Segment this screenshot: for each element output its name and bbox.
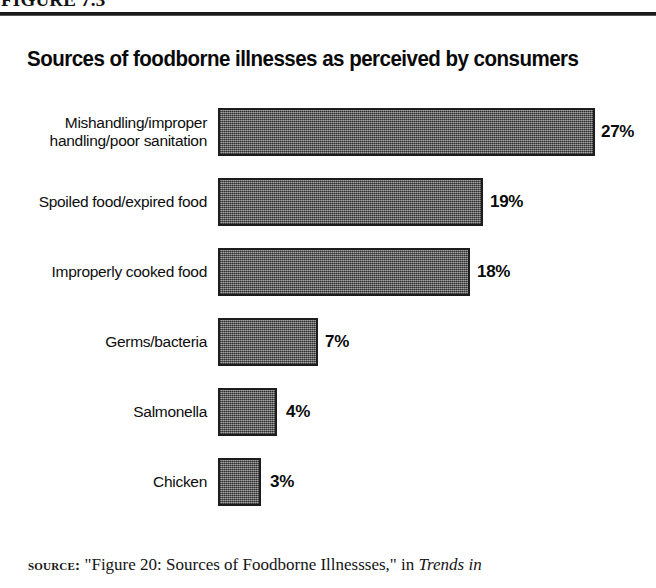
figure-number: FIGURE 7.3: [1, 0, 105, 11]
bar-category-label-line1: Salmonella: [133, 403, 207, 422]
bar-category-label: Chicken: [0, 454, 207, 510]
bar-value-label: 18%: [477, 244, 510, 300]
bar-category-label: Salmonella: [0, 384, 207, 440]
bar-rect: [218, 388, 277, 436]
bar-row: Germs/bacteria 7%: [0, 314, 656, 370]
bar-rect: [218, 108, 595, 156]
header-divider-rule-thin: [0, 15, 656, 16]
bar-category-label-line1: Germs/bacteria: [105, 333, 207, 352]
bar-category-label-line1: Mishandling/improper: [65, 114, 207, 133]
source-label: source:: [28, 557, 80, 573]
bar-value-label: 19%: [490, 174, 523, 230]
bar-category-label: Mishandling/improper handling/poor sanit…: [0, 104, 207, 160]
bar-category-label: Improperly cooked food: [0, 244, 207, 300]
bar-category-label: Germs/bacteria: [0, 314, 207, 370]
bar-row: Spoiled food/expired food 19%: [0, 174, 656, 230]
source-publication-title: Trends in: [419, 555, 482, 574]
bar-rect: [218, 458, 261, 506]
bar-value-label: 27%: [601, 104, 634, 160]
bar-rect: [218, 318, 318, 366]
bar-rect: [218, 178, 483, 226]
bar-row: Chicken 3%: [0, 454, 656, 510]
bar-value-label: 4%: [286, 384, 310, 440]
source-citation-text: "Figure 20: Sources of Foodborne Illness…: [80, 555, 418, 574]
bar-rect: [218, 248, 470, 296]
bar-category-label-line1: Improperly cooked food: [52, 263, 207, 282]
bar-value-label: 3%: [270, 454, 294, 510]
bar-value-label: 7%: [325, 314, 349, 370]
bar-category-label: Spoiled food/expired food: [0, 174, 207, 230]
bar-category-label-line2: handling/poor sanitation: [50, 132, 207, 151]
bar-row: Salmonella 4%: [0, 384, 656, 440]
bar-row: Mishandling/improper handling/poor sanit…: [0, 104, 656, 160]
bar-row: Improperly cooked food 18%: [0, 244, 656, 300]
source-note: source: "Figure 20: Sources of Foodborne…: [28, 554, 638, 576]
bar-chart-plot-area: Mishandling/improper handling/poor sanit…: [0, 104, 656, 528]
bar-category-label-line1: Chicken: [153, 473, 207, 492]
bar-category-label-line1: Spoiled food/expired food: [39, 193, 207, 212]
chart-title: Sources of foodborne illnesses as percei…: [27, 47, 600, 72]
